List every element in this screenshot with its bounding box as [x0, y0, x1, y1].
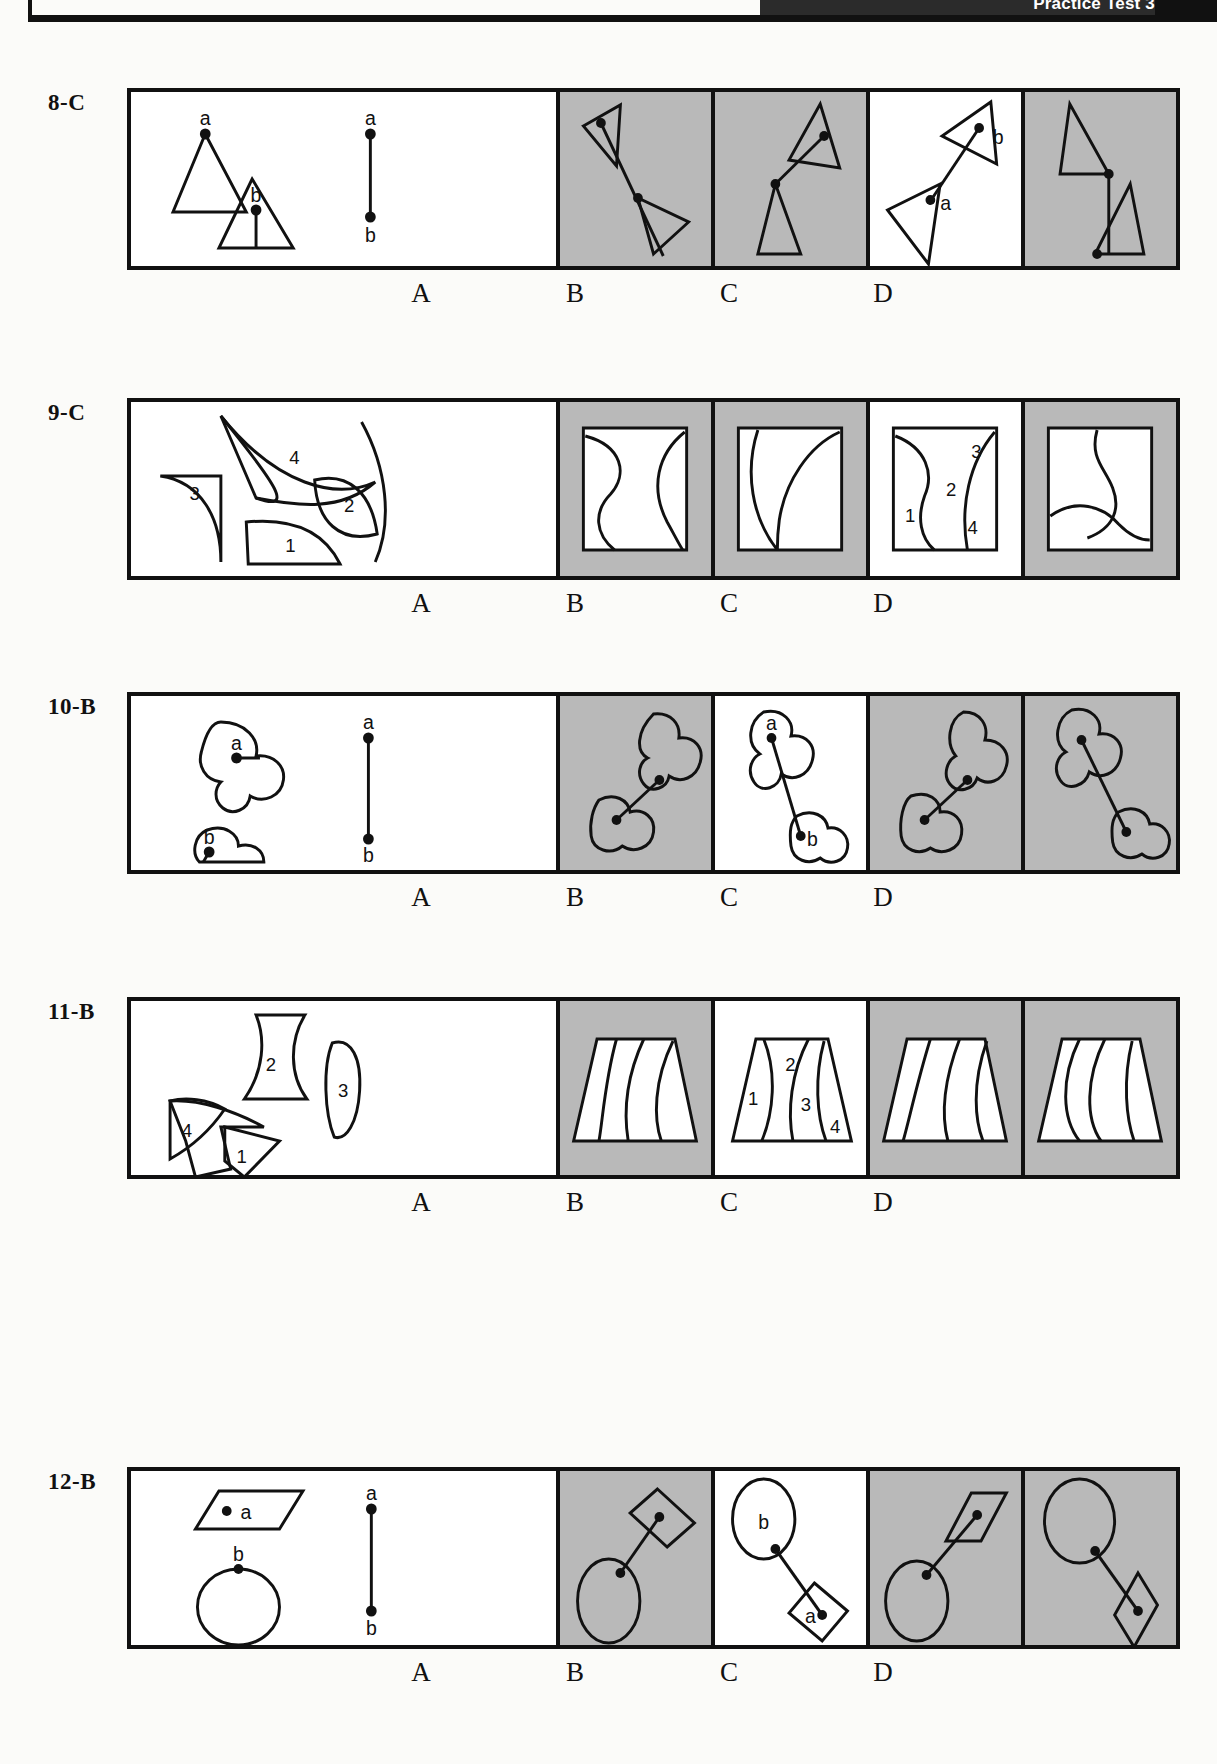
question-label-8: 8-C [48, 90, 85, 116]
question-11-reference-panel: 2 3 4 1 [131, 1001, 560, 1175]
question-11-option-d[interactable] [1025, 1001, 1176, 1175]
page-header-title: Practice Test 3 [1033, 0, 1155, 14]
question-10-option-b[interactable]: a b [715, 696, 870, 870]
question-11-panels: 2 3 4 1 [127, 997, 1180, 1179]
marker-a-line10: a [363, 711, 374, 733]
option-label-d-q10: D [853, 882, 913, 913]
question-8-option-c[interactable]: b a [870, 92, 1025, 266]
option-label-a-q9: A [391, 588, 451, 619]
marker-a-line8: a [365, 107, 376, 129]
option-label-b-q12: B [545, 1657, 605, 1688]
marker-2-opt9c: 2 [946, 479, 956, 500]
marker-3-opt9c: 3 [971, 441, 981, 462]
marker-3-opt11b: 3 [801, 1094, 811, 1115]
marker-b-ref8: b [251, 184, 262, 206]
question-12-option-b[interactable]: b a [715, 1471, 870, 1645]
marker-a-ref12: a [240, 1501, 251, 1523]
marker-b-line8: b [365, 224, 376, 246]
question-10-option-labels: A B C D [127, 882, 1180, 916]
option-label-a-q11: A [391, 1187, 451, 1218]
question-12-panels: a b a b [127, 1467, 1180, 1649]
question-9-option-b[interactable] [715, 402, 870, 576]
question-8-panels: a b a b [127, 88, 1180, 270]
question-10-panels: a b a b [127, 692, 1180, 874]
question-12-option-d[interactable] [1025, 1471, 1176, 1645]
question-12-option-labels: A B C D [127, 1657, 1180, 1691]
question-10-option-a[interactable] [560, 696, 715, 870]
question-10-option-c[interactable] [870, 696, 1025, 870]
marker-b-line10: b [363, 844, 374, 866]
option-label-a-q12: A [391, 1657, 451, 1688]
question-12-reference-panel: a b a b [131, 1471, 560, 1645]
header-rule [28, 0, 1189, 22]
question-8-option-labels: A B C D [127, 278, 1180, 312]
option-label-b-q11: B [545, 1187, 605, 1218]
marker-4-opt11b: 4 [830, 1116, 840, 1137]
option-label-c-q12: C [699, 1657, 759, 1688]
option-label-b-q8: B [545, 278, 605, 309]
question-label-10: 10-B [48, 694, 96, 720]
marker-a-line12: a [366, 1482, 377, 1504]
marker-a-opt10b: a [766, 712, 777, 734]
question-9-panels: 4 3 2 1 [127, 398, 1180, 580]
marker-a-ref10: a [231, 732, 242, 754]
option-label-a-q10: A [391, 882, 451, 913]
marker-3-ref9: 3 [190, 483, 200, 504]
marker-1-opt9c: 1 [905, 505, 915, 526]
marker-4-ref9: 4 [289, 447, 299, 468]
question-label-12: 12-B [48, 1469, 96, 1495]
marker-b-opt12b: b [758, 1511, 769, 1533]
marker-3-ref11: 3 [338, 1080, 348, 1101]
option-label-a-q8: A [391, 278, 451, 309]
question-9-option-d[interactable] [1025, 402, 1176, 576]
question-8-reference-panel: a b a b [131, 92, 560, 266]
question-11-option-c[interactable] [870, 1001, 1025, 1175]
question-8-option-d[interactable] [1025, 92, 1176, 266]
marker-b-ref12: b [233, 1543, 244, 1565]
marker-b-opt8c: b [993, 126, 1004, 148]
option-label-b-q10: B [545, 882, 605, 913]
marker-2-opt11b: 2 [785, 1054, 795, 1075]
marker-1-opt11b: 1 [748, 1088, 758, 1109]
question-9-option-a[interactable] [560, 402, 715, 576]
option-label-d-q9: D [853, 588, 913, 619]
marker-1-ref9: 1 [285, 535, 295, 556]
option-label-d-q8: D [853, 278, 913, 309]
marker-1-ref11: 1 [237, 1146, 247, 1167]
option-label-c-q11: C [699, 1187, 759, 1218]
question-9-reference-panel: 4 3 2 1 [131, 402, 560, 576]
question-11-option-labels: A B C D [127, 1187, 1180, 1221]
question-12-option-c[interactable] [870, 1471, 1025, 1645]
option-label-b-q9: B [545, 588, 605, 619]
question-10-option-d[interactable] [1025, 696, 1176, 870]
question-10-reference-panel: a b a b [131, 696, 560, 870]
question-label-9: 9-C [48, 400, 85, 426]
marker-a-ref8: a [200, 107, 211, 129]
marker-a-opt8c: a [940, 192, 951, 214]
marker-4-opt9c: 4 [967, 517, 977, 538]
option-label-c-q8: C [699, 278, 759, 309]
question-label-11: 11-B [48, 999, 95, 1025]
marker-4-ref11: 4 [182, 1120, 192, 1141]
question-11-option-a[interactable] [560, 1001, 715, 1175]
marker-b-line12: b [366, 1617, 377, 1639]
option-label-d-q12: D [853, 1657, 913, 1688]
question-11-option-b[interactable]: 2 1 3 4 [715, 1001, 870, 1175]
marker-a-opt12b: a [805, 1605, 816, 1627]
marker-b-opt10b: b [807, 828, 818, 850]
option-label-d-q11: D [853, 1187, 913, 1218]
question-9-option-c[interactable]: 3 2 1 4 [870, 402, 1025, 576]
question-9-option-labels: A B C D [127, 588, 1180, 622]
question-12-option-a[interactable] [560, 1471, 715, 1645]
marker-b-ref10: b [204, 826, 215, 848]
marker-2-ref9: 2 [344, 495, 354, 516]
option-label-c-q9: C [699, 588, 759, 619]
option-label-c-q10: C [699, 882, 759, 913]
question-8-option-a[interactable] [560, 92, 715, 266]
marker-2-ref11: 2 [266, 1054, 276, 1075]
question-8-option-b[interactable] [715, 92, 870, 266]
